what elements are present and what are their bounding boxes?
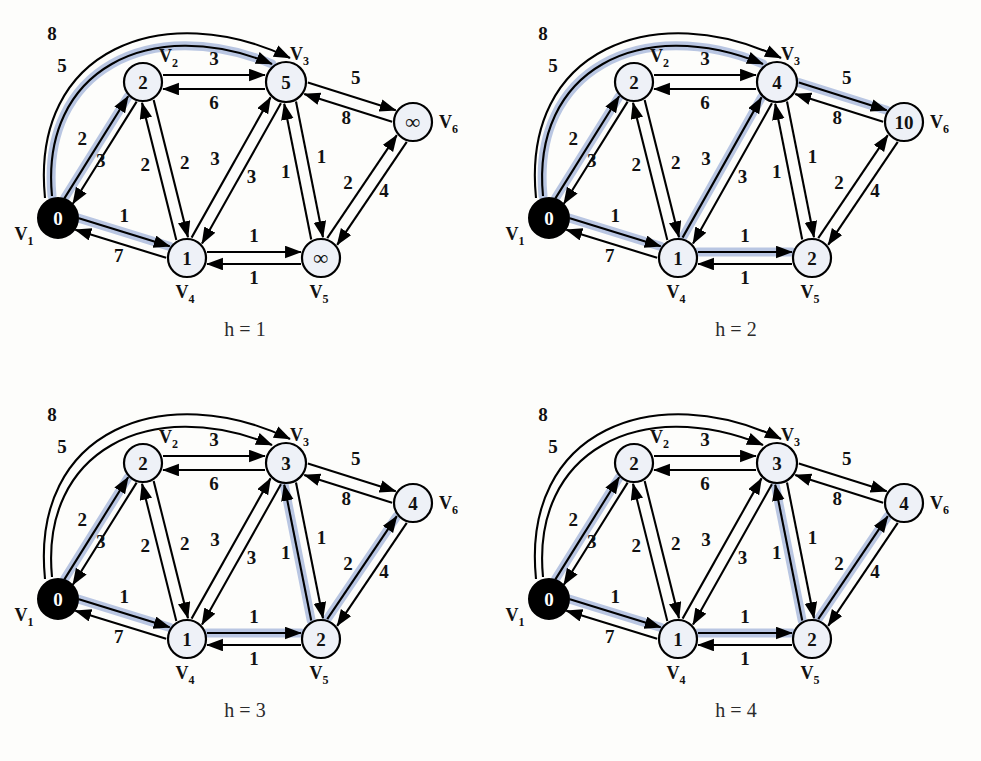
node-name-subscript-v1: 1 (519, 234, 525, 248)
node-value-v3: 3 (772, 453, 782, 474)
edge-weight-v3_v5: 1 (808, 146, 818, 167)
node-v6[interactable]: 4 (885, 484, 923, 522)
edge-weight-v4_v3: 3 (210, 148, 220, 169)
node-name-subscript-v3: 3 (794, 54, 800, 68)
node-name-subscript-v6: 6 (452, 503, 458, 517)
node-value-v6: ∞ (406, 110, 421, 134)
edge-weight-v3_v4: 3 (738, 166, 748, 187)
edge-weight-v2_v1: 3 (96, 150, 106, 171)
node-v1[interactable]: 0 (39, 580, 77, 618)
node-value-v4: 1 (673, 629, 683, 650)
node-name-letter-v6: V (439, 493, 452, 513)
edge-v6_v5 (828, 142, 898, 245)
panel-caption: h = 1 (0, 318, 490, 341)
edge-weight-v4_v5: 1 (740, 225, 750, 246)
node-v2[interactable]: 2 (615, 63, 653, 101)
node-name-v4: V4 (667, 282, 686, 306)
node-v1[interactable]: 0 (39, 199, 77, 237)
node-name-v6: V6 (439, 493, 458, 517)
edge-weight-v4_v5: 1 (740, 606, 750, 627)
figure-root: 233622173311115824850V12V25V31V4∞V5∞V6h … (0, 0, 981, 761)
edge-weight-v3_v6: 5 (351, 67, 361, 88)
edge-weight-v2_v3: 3 (700, 48, 710, 69)
node-v3[interactable]: 4 (757, 62, 797, 102)
edge-weight-v4_v3: 3 (701, 148, 711, 169)
edge-weight-v4_v3: 3 (701, 529, 711, 550)
edge-weight-v4_v5: 1 (249, 606, 259, 627)
edge-weight-v2_v4: 2 (180, 152, 190, 173)
node-v1[interactable]: 0 (530, 199, 568, 237)
node-v4[interactable]: 1 (168, 620, 206, 658)
node-name-letter-v6: V (930, 112, 943, 132)
edge-weight-v4_v2: 2 (631, 154, 641, 175)
edge-weight-v2_v3: 3 (209, 429, 219, 450)
edge-weight-v2_v3: 3 (209, 48, 219, 69)
edge-weight-v3_v6: 5 (351, 448, 361, 469)
node-v6[interactable]: 10 (885, 103, 923, 141)
edge-v6_v5 (828, 523, 898, 626)
node-v5[interactable]: ∞ (302, 239, 340, 277)
edge-weight-v2_v4: 2 (180, 533, 190, 554)
edge-v3_v5 (296, 101, 323, 237)
node-name-letter-v5: V (801, 282, 814, 302)
node-v6[interactable]: 4 (394, 484, 432, 522)
edge-v1_v2 (64, 96, 128, 198)
edge-weight-v1_v3_arc: 8 (47, 23, 57, 44)
node-name-subscript-v6: 6 (943, 503, 949, 517)
node-v5[interactable]: 2 (793, 239, 831, 277)
node-name-subscript-v4: 4 (680, 673, 686, 687)
node-name-letter-v2: V (650, 46, 663, 66)
panel-h4: 233622173311115824850V12V23V31V42V54V6h … (491, 381, 981, 761)
edge-weight-v1_v2: 2 (569, 128, 579, 149)
node-name-subscript-v2: 2 (172, 437, 178, 451)
edge-weight-v1_v4: 1 (611, 205, 621, 226)
edge-weight-v3_v2: 6 (209, 92, 219, 113)
node-v2[interactable]: 2 (124, 63, 162, 101)
edge-weight-v5_v6: 2 (343, 553, 353, 574)
node-v2[interactable]: 2 (124, 444, 162, 482)
node-name-v5: V5 (801, 663, 820, 687)
node-name-subscript-v3: 3 (303, 54, 309, 68)
node-value-v5: 2 (807, 248, 817, 269)
node-name-letter-v1: V (15, 605, 28, 625)
node-v5[interactable]: 2 (302, 620, 340, 658)
edge-weight-v6_v3: 8 (341, 488, 351, 509)
node-v4[interactable]: 1 (168, 239, 206, 277)
panel-caption: h = 3 (0, 699, 490, 722)
edge-weight-v1_v4: 1 (120, 586, 130, 607)
node-value-v1: 0 (53, 208, 63, 229)
node-v3[interactable]: 5 (266, 62, 306, 102)
node-v4[interactable]: 1 (659, 620, 697, 658)
edge-weight-v6_v5: 4 (870, 180, 880, 201)
node-value-v6: 10 (895, 112, 914, 133)
node-v5[interactable]: 2 (793, 620, 831, 658)
node-name-subscript-v3: 3 (794, 435, 800, 449)
node-v3[interactable]: 3 (757, 443, 797, 483)
edge-weight-v2_v3: 3 (700, 429, 710, 450)
edge-weight-v2_v1: 3 (587, 531, 597, 552)
edge-weight-v4_v1: 7 (605, 245, 615, 266)
panel-caption: h = 4 (491, 699, 981, 722)
node-name-letter-v5: V (310, 663, 323, 683)
edge-v1_v2 (555, 477, 619, 579)
edge-weight-v3_v4: 3 (738, 547, 748, 568)
edge-weight-v4_v2: 2 (140, 535, 150, 556)
edge-weight-v5_v4: 1 (249, 648, 259, 669)
edge-weight-v5_v4: 1 (740, 648, 750, 669)
edge-weight-v6_v5: 4 (379, 561, 389, 582)
node-name-letter-v4: V (176, 663, 189, 683)
node-name-v2: V2 (159, 427, 178, 451)
node-v1[interactable]: 0 (530, 580, 568, 618)
node-v3[interactable]: 3 (266, 443, 306, 483)
node-name-subscript-v1: 1 (28, 615, 34, 629)
edge-weight-v6_v3: 8 (832, 107, 842, 128)
node-v6[interactable]: ∞ (394, 103, 432, 141)
node-name-v1: V1 (506, 605, 525, 629)
node-v4[interactable]: 1 (659, 239, 697, 277)
edge-weight-v5_v3: 1 (772, 542, 782, 563)
edge-v6_v5 (337, 142, 407, 245)
edge-v4_v3 (192, 478, 271, 618)
node-v2[interactable]: 2 (615, 444, 653, 482)
edge-weight-v2_v4: 2 (671, 533, 681, 554)
edge-v4_v3 (683, 478, 762, 618)
